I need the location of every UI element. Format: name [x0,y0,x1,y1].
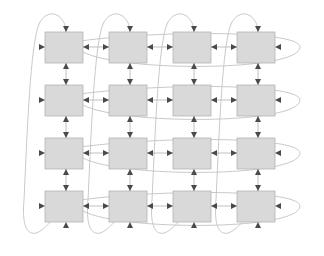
arrow-down-c2-r1 [191,79,197,85]
arrow-left-r3-c0 [83,203,89,209]
arrow-left-r3-c1 [147,203,153,209]
node-box-r1-c1[interactable] [109,85,147,116]
torus-diagram-canvas [0,0,324,256]
node-box-r2-c2[interactable] [173,138,211,169]
arrow-left-r1-c2 [211,97,217,103]
arrow-right-r1-c1 [103,97,109,103]
arrow-up-c1-r1 [127,116,133,122]
arrow-up-c1-r3 [127,222,133,228]
arrow-right-r0-c1 [103,44,109,50]
arrow-up-c3-r1 [255,116,261,122]
arrow-left-r2-c2 [211,150,217,156]
arrow-down-c0-r3 [63,185,69,191]
arrow-up-c3-r3 [255,222,261,228]
arrow-up-c3-r0 [255,63,261,69]
arrow-down-c0-r2 [63,132,69,138]
node-box-r0-c1[interactable] [109,32,147,63]
arrow-down-c2-r2 [191,132,197,138]
arrow-down-c1-r1 [127,79,133,85]
node-box-r2-c3[interactable] [237,138,275,169]
arrow-right-r1-c2 [167,97,173,103]
arrow-right-r0-c0 [39,44,45,50]
arrow-left-r1-c3 [275,97,281,103]
arrow-left-r0-c3 [275,44,281,50]
arrow-up-c0-r1 [63,116,69,122]
node-box-r3-c2[interactable] [173,191,211,222]
arrow-left-r1-c1 [147,97,153,103]
arrow-right-r3-c2 [167,203,173,209]
arrow-left-r0-c1 [147,44,153,50]
arrow-down-c2-r0 [191,26,197,32]
arrow-left-r2-c1 [147,150,153,156]
arrow-left-r0-c0 [83,44,89,50]
arrow-down-c3-r3 [255,185,261,191]
arrow-up-c1-r0 [127,63,133,69]
arrow-right-r2-c0 [39,150,45,156]
node-box-r0-c3[interactable] [237,32,275,63]
arrow-down-c0-r1 [63,79,69,85]
arrow-right-r2-c1 [103,150,109,156]
arrow-right-r3-c0 [39,203,45,209]
arrow-left-r1-c0 [83,97,89,103]
horizontal-links-group [83,47,237,206]
arrow-right-r0-c2 [167,44,173,50]
arrow-down-c2-r3 [191,185,197,191]
arrow-left-r3-c3 [275,203,281,209]
node-box-r1-c2[interactable] [173,85,211,116]
arrow-left-r2-c0 [83,150,89,156]
node-box-r3-c3[interactable] [237,191,275,222]
arrow-right-r3-c3 [231,203,237,209]
arrow-right-r2-c2 [167,150,173,156]
arrow-right-r3-c1 [103,203,109,209]
arrow-down-c3-r1 [255,79,261,85]
arrow-right-r1-c3 [231,97,237,103]
node-box-r3-c0[interactable] [45,191,83,222]
arrow-right-r0-c3 [231,44,237,50]
arrow-down-c1-r3 [127,185,133,191]
arrow-right-r1-c0 [39,97,45,103]
arrow-left-r2-c3 [275,150,281,156]
arrow-up-c0-r2 [63,169,69,175]
arrow-left-r3-c2 [211,203,217,209]
node-box-r2-c0[interactable] [45,138,83,169]
arrow-up-c0-r0 [63,63,69,69]
node-box-r1-c0[interactable] [45,85,83,116]
arrow-down-c1-r2 [127,132,133,138]
arrow-down-c3-r0 [255,26,261,32]
arrow-down-c0-r0 [63,26,69,32]
arrow-left-r0-c2 [211,44,217,50]
node-box-r0-c0[interactable] [45,32,83,63]
node-box-r0-c2[interactable] [173,32,211,63]
node-box-r3-c1[interactable] [109,191,147,222]
node-box-r1-c3[interactable] [237,85,275,116]
arrow-up-c3-r2 [255,169,261,175]
arrow-up-c1-r2 [127,169,133,175]
arrow-down-c1-r0 [127,26,133,32]
arrow-up-c0-r3 [63,222,69,228]
node-box-r2-c1[interactable] [109,138,147,169]
arrow-down-c3-r2 [255,132,261,138]
arrow-right-r2-c3 [231,150,237,156]
torus-network-svg [0,0,324,256]
